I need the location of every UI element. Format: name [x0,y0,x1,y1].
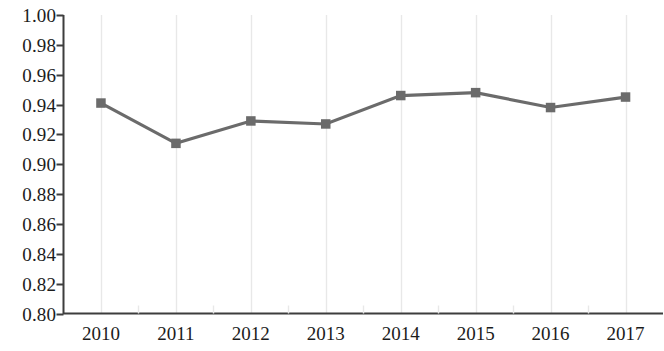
x-axis-tick-label: 2010 [82,324,120,343]
x-axis-labels: 20102011201220132014201520162017 [0,0,664,351]
x-axis-tick-label: 2016 [532,324,570,343]
line-chart: 1.000.980.960.940.920.900.880.860.840.82… [0,0,664,351]
x-axis-tick-label: 2014 [382,324,420,343]
x-axis-tick-label: 2012 [232,324,270,343]
x-axis-tick-label: 2017 [607,324,645,343]
x-axis-tick-label: 2015 [457,324,495,343]
x-axis-tick-label: 2011 [157,324,194,343]
x-axis-tick-label: 2013 [307,324,345,343]
